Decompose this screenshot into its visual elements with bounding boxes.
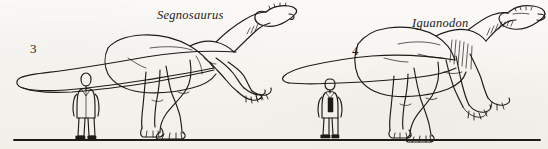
- human-leg-right-1: [88, 118, 95, 136]
- human-shoe-left-2: [321, 135, 330, 138]
- iguanodon-shoulder: [436, 29, 486, 41]
- segnosaurus-figure: [17, 3, 297, 139]
- iguanodon-near-thigh-back: [414, 68, 431, 136]
- segnosaurus-scale-human: [73, 73, 99, 139]
- segnosaurus-neck-hatch: [247, 24, 258, 34]
- iguanodon-jawline: [513, 13, 529, 14]
- figure-number-3: 3: [30, 42, 37, 55]
- human-arm-right-2: [338, 97, 342, 117]
- human-suit-front-2: [328, 98, 333, 112]
- iguanodon-near-arm-back: [446, 60, 463, 107]
- human-head-1: [81, 73, 91, 86]
- iguanodon-near-hand: [469, 105, 491, 112]
- segnosaurus-flank-crease-1: [128, 58, 146, 68]
- iguanodon-far-hindleg-back: [390, 76, 394, 130]
- segnosaurus-near-claws-base: [238, 92, 262, 100]
- iguanodon-dorsal-crease: [398, 42, 440, 45]
- species-label-iguanodon: Iguanodon: [412, 17, 468, 30]
- segnosaurus-far-knee-crease: [152, 100, 163, 102]
- human-shoe-right-2: [332, 135, 339, 138]
- iguanodon-head-lower: [499, 13, 545, 29]
- iguanodon-scale-human: [318, 79, 342, 138]
- iguanodon-near-toes: [412, 136, 431, 142]
- segnosaurus-near-toes: [162, 133, 182, 139]
- figure-number-4: 4: [352, 44, 359, 57]
- human-arm-right-1: [95, 94, 99, 116]
- segnosaurus-dorsal-crease: [150, 47, 192, 50]
- human-collar-2: [326, 93, 334, 98]
- iguanodon-knee-crease: [426, 98, 437, 100]
- human-leg-left-1: [78, 118, 85, 136]
- segnosaurus-back: [108, 35, 214, 68]
- iguanodon-far-knee-crease: [400, 104, 411, 106]
- iguanodon-head-upper: [508, 6, 545, 14]
- human-arm-left-1: [73, 94, 77, 116]
- species-label-segnosaurus: Segnosaurus: [157, 9, 224, 22]
- illustration-plate: Segnosaurus Iguanodon 3 4: [0, 0, 548, 149]
- segnosaurus-near-hand: [244, 88, 265, 95]
- iguanodon-far-hindleg-front: [403, 74, 408, 129]
- human-leg-left-2: [323, 118, 329, 135]
- iguanodon-far-toes: [394, 133, 407, 138]
- iguanodon-tail-top: [283, 55, 455, 83]
- human-shoe-right-1: [88, 136, 96, 139]
- iguanodon-far-arm: [470, 54, 488, 98]
- human-head-2: [325, 79, 335, 90]
- segnosaurus-near-thigh-front: [160, 60, 191, 132]
- human-leg-right-2: [332, 118, 338, 135]
- segnosaurus-neck-lower: [234, 23, 270, 52]
- segnosaurus-head-upper: [266, 6, 297, 13]
- iguanodon-flank-crease-1: [384, 58, 408, 62]
- human-arm-left-2: [318, 97, 322, 117]
- human-shoe-left-1: [76, 136, 85, 139]
- iguanodon-neck-hatch: [487, 22, 502, 35]
- iguanodon-tail-bottom: [289, 68, 456, 84]
- iguanodon-neck-upper: [468, 13, 508, 30]
